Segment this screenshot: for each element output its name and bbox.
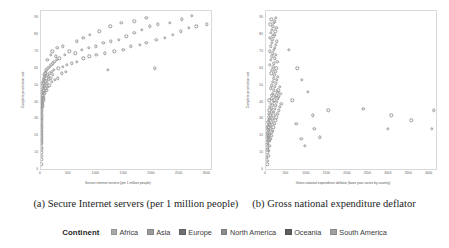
data-point — [277, 109, 280, 112]
legend-item-oceania[interactable]: Oceania — [285, 228, 321, 237]
y-tick-label: 40 — [249, 101, 263, 104]
data-point — [56, 77, 59, 80]
data-point — [51, 50, 54, 53]
data-point — [138, 43, 141, 46]
data-point — [190, 14, 193, 17]
data-point — [276, 75, 279, 78]
data-point — [266, 163, 269, 166]
data-point — [313, 127, 316, 130]
data-point — [300, 78, 303, 81]
data-point — [306, 90, 309, 93]
data-point — [40, 146, 43, 149]
data-point — [94, 45, 97, 48]
y-tick-label: 30 — [24, 118, 38, 121]
x-tick-label: 500 — [56, 172, 80, 175]
data-point — [274, 70, 277, 73]
y-tick-label: 50 — [24, 84, 38, 87]
data-point — [410, 119, 413, 122]
legend-item-label: North America — [230, 228, 276, 237]
data-point — [153, 67, 156, 70]
data-point — [113, 50, 116, 53]
data-point — [430, 127, 433, 130]
data-point — [179, 30, 182, 33]
legend-item-label: South America — [339, 228, 386, 237]
x-tick-label: 3000 — [194, 172, 218, 175]
figure-root: Complete penetration rate 01020304050607… — [0, 0, 449, 248]
x-tick-label: 2000 — [139, 172, 163, 175]
legend-item-south-america[interactable]: South America — [330, 228, 386, 237]
y-tick-label: 90 — [24, 17, 38, 20]
data-point — [180, 18, 183, 21]
data-point — [68, 50, 71, 53]
y-axis-ticks-a: 0102030405060708090 — [22, 10, 38, 170]
legend-item-asia[interactable]: Asia — [147, 228, 170, 237]
data-point — [155, 38, 158, 41]
y-axis-ticks-b: 0102030405060708090 — [247, 10, 263, 170]
x-tick-label: 2500 — [167, 172, 191, 175]
y-tick-label: 90 — [249, 17, 263, 20]
data-point — [432, 109, 435, 112]
data-point — [106, 68, 109, 71]
data-point — [272, 126, 275, 129]
data-point — [295, 67, 298, 70]
data-point — [272, 122, 275, 125]
data-point — [145, 16, 148, 19]
data-point — [80, 48, 83, 51]
y-tick-label: 30 — [249, 118, 263, 121]
x-tick-label: 1500 — [111, 172, 135, 175]
data-point — [171, 33, 174, 36]
data-point — [88, 33, 91, 36]
data-point — [40, 151, 43, 154]
data-point — [274, 104, 277, 107]
legend-swatch-icon — [285, 229, 292, 236]
data-point — [318, 136, 321, 139]
data-point — [267, 154, 270, 157]
data-point — [266, 159, 269, 162]
legend-item-north-america[interactable]: North America — [221, 228, 276, 237]
data-point — [75, 40, 78, 43]
data-point — [63, 53, 66, 56]
data-point — [148, 24, 151, 27]
data-point — [60, 72, 63, 75]
data-point — [64, 70, 67, 73]
data-point — [291, 99, 294, 102]
data-point — [81, 36, 84, 39]
data-point — [65, 63, 68, 66]
data-point — [125, 35, 128, 38]
panel-row: Complete penetration rate 01020304050607… — [0, 0, 449, 196]
data-point — [140, 28, 143, 31]
y-tick-label: 20 — [24, 135, 38, 138]
y-tick-label: 60 — [24, 67, 38, 70]
data-point — [88, 55, 91, 58]
legend-swatch-icon — [111, 229, 118, 236]
y-tick-label: 70 — [24, 50, 38, 53]
data-point — [48, 83, 51, 86]
data-point — [117, 38, 120, 41]
data-point — [56, 67, 59, 70]
data-point — [49, 53, 52, 56]
data-point — [70, 62, 73, 65]
data-point — [273, 19, 276, 22]
data-point — [145, 41, 148, 44]
legend-swatch-icon — [330, 229, 337, 236]
legend-item-label: Europe — [188, 228, 212, 237]
data-point — [52, 68, 55, 71]
x-axis-ticks-b: 05001000150020002500300035004000 — [265, 172, 437, 180]
y-tick-label: 70 — [249, 50, 263, 53]
legend-item-africa[interactable]: Africa — [111, 228, 139, 237]
data-point — [163, 36, 166, 39]
plot-area-b — [265, 10, 437, 170]
caption-a: (a) Secure Internet servers (per 1 milli… — [33, 198, 238, 209]
legend-swatch-icon — [221, 229, 228, 236]
data-point — [390, 114, 393, 117]
data-point — [274, 119, 277, 122]
data-point — [168, 21, 171, 24]
data-point — [270, 41, 273, 44]
legend-item-label: Africa — [120, 228, 139, 237]
data-point — [103, 51, 106, 54]
legend-item-europe[interactable]: Europe — [179, 228, 212, 237]
data-point — [109, 24, 112, 27]
y-tick-label: 10 — [24, 151, 38, 154]
data-point — [133, 19, 136, 22]
data-point — [275, 26, 278, 29]
